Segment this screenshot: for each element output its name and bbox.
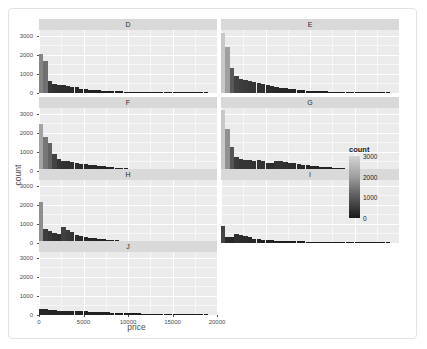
- legend: count 3000200010000: [349, 145, 369, 218]
- x-axis-tick-label: 10000: [120, 319, 137, 325]
- facet-panel-f: F: [39, 97, 217, 171]
- y-axis-tick-label: 0: [30, 168, 33, 174]
- y-axis-tick-label: 0: [30, 312, 33, 318]
- histogram-bars: [221, 30, 399, 93]
- facet-panel-d: D: [39, 19, 217, 93]
- facet-strip-label: D: [39, 19, 217, 30]
- y-axis-tick-label: 0: [30, 240, 33, 246]
- y-axis-tick-mark: [37, 152, 39, 153]
- facet-strip-label: H: [39, 169, 217, 180]
- facet-panel-g: G: [221, 97, 399, 171]
- legend-tick-label: 2000: [363, 173, 377, 180]
- x-axis-tick-label: 20000: [209, 319, 226, 325]
- x-axis-tick-mark: [217, 315, 218, 317]
- histogram-bars: [39, 108, 217, 171]
- legend-tick-label: 3000: [363, 153, 377, 160]
- histogram-bar: [386, 242, 390, 243]
- y-axis-tick-mark: [37, 205, 39, 206]
- y-axis-tick-mark: [37, 186, 39, 187]
- y-axis-tick-mark: [37, 93, 39, 94]
- x-axis-tick-label: 5000: [77, 319, 90, 325]
- x-axis-tick-mark: [39, 315, 40, 317]
- y-axis-tick-mark: [37, 55, 39, 56]
- y-axis-tick-label: 2000: [20, 274, 33, 280]
- facet-plot-area: [39, 30, 217, 93]
- facet-plot-area: [39, 180, 217, 243]
- y-axis-title: count: [11, 9, 25, 340]
- y-axis-tick-label: 1000: [20, 149, 33, 155]
- histogram-bar: [386, 92, 390, 93]
- y-axis-tick-label: 0: [30, 90, 33, 96]
- facet-plot-area: [221, 108, 399, 171]
- facet-plot-area: [221, 30, 399, 93]
- y-axis-tick-label: 2000: [20, 130, 33, 136]
- y-axis-tick-label: 1000: [20, 221, 33, 227]
- facet-strip-label: E: [221, 19, 399, 30]
- plot-card: count price DEFGHIJ 01000200030000100020…: [8, 8, 417, 339]
- facet-plot-area: [221, 180, 399, 243]
- facet-strip-label: G: [221, 97, 399, 108]
- facet-plot-area: [39, 252, 217, 315]
- facet-strip-label: F: [39, 97, 217, 108]
- legend-colorbar: [349, 156, 360, 218]
- x-axis-tick-mark: [84, 315, 85, 317]
- histogram-bars: [221, 180, 399, 243]
- facet-strip-label: J: [39, 241, 217, 252]
- y-axis-tick-mark: [37, 277, 39, 278]
- facet-panel-e: E: [221, 19, 399, 93]
- y-axis-tick-label: 3000: [20, 33, 33, 39]
- y-axis-tick-label: 3000: [20, 111, 33, 117]
- y-axis-tick-mark: [37, 258, 39, 259]
- y-axis-tick-label: 2000: [20, 52, 33, 58]
- y-axis-tick-mark: [37, 171, 39, 172]
- y-axis-tick-mark: [37, 133, 39, 134]
- y-axis-tick-label: 1000: [20, 293, 33, 299]
- y-axis-tick-mark: [37, 114, 39, 115]
- histogram-bars: [39, 30, 217, 93]
- y-axis-tick-mark: [37, 296, 39, 297]
- histogram-bar: [204, 92, 208, 93]
- legend-tick-label: 1000: [363, 194, 377, 201]
- histogram-bars: [221, 108, 399, 171]
- y-axis-tick-label: 1000: [20, 71, 33, 77]
- x-axis-tick-label: 0: [37, 319, 40, 325]
- histogram-bars: [39, 252, 217, 315]
- facet-panel-j: J: [39, 241, 217, 315]
- histogram-bar: [204, 314, 208, 315]
- legend-tick-label: 0: [363, 215, 367, 222]
- legend-body: 3000200010000: [349, 156, 369, 218]
- x-axis-tick-mark: [128, 315, 129, 317]
- y-axis-tick-label: 2000: [20, 202, 33, 208]
- histogram-bars: [39, 180, 217, 243]
- x-axis-tick-mark: [173, 315, 174, 317]
- facet-panel-h: H: [39, 169, 217, 243]
- x-axis-tick-label: 15000: [164, 319, 181, 325]
- y-axis-tick-label: 3000: [20, 183, 33, 189]
- facet-plot-area: [39, 108, 217, 171]
- y-axis-tick-mark: [37, 243, 39, 244]
- y-axis-tick-mark: [37, 224, 39, 225]
- y-axis-tick-label: 3000: [20, 255, 33, 261]
- y-axis-tick-mark: [37, 36, 39, 37]
- y-axis-tick-mark: [37, 74, 39, 75]
